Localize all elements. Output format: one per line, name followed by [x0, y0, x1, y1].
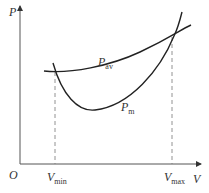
origin-label: O	[9, 168, 18, 182]
vmax-label: Vmax	[164, 170, 185, 186]
vmin-label: Vmin	[47, 170, 67, 186]
power-velocity-diagram: P O V Pav Pm Vmin Vmax	[0, 0, 209, 193]
pav-label: Pav	[97, 55, 113, 71]
pm-label: Pm	[120, 100, 135, 116]
y-axis-label: P	[8, 5, 17, 19]
x-axis-label: V	[193, 172, 202, 186]
